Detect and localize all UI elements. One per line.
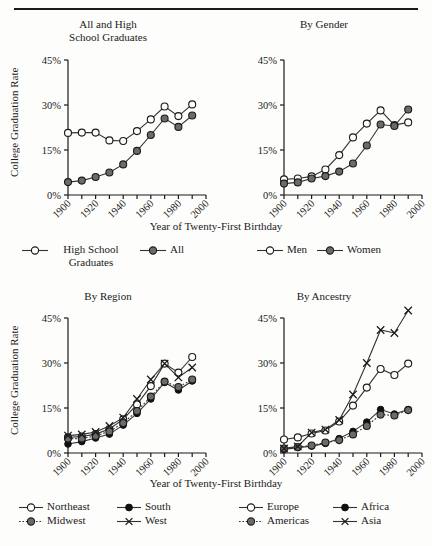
legend-item-west[interactable]: West: [117, 514, 187, 527]
y-tick-label: 15%: [42, 403, 62, 414]
y-tick-label: 30%: [258, 358, 278, 369]
panel-all-and-high-school-graduates: All and High School Graduates College Gr…: [0, 18, 216, 223]
data-point-marker: [92, 174, 99, 181]
data-point-marker: [134, 408, 141, 415]
panel-title-top-right: By Gender: [216, 18, 432, 31]
data-point-marker: [161, 378, 168, 385]
x-tick-label: 1940: [321, 456, 344, 479]
data-point-marker: [363, 384, 370, 391]
data-point-marker: [175, 384, 182, 391]
x-tick-label: 1900: [50, 198, 73, 221]
x-tick-label: 1960: [133, 456, 156, 479]
data-point-marker: [189, 354, 196, 361]
series-line: [68, 104, 192, 141]
x-tick-label: 1980: [161, 198, 184, 221]
x-tick-label: 1980: [161, 456, 184, 479]
gray-circle-dotted-icon: [19, 517, 43, 526]
y-tick-label: 15%: [42, 145, 62, 156]
x-tick-label: 1960: [349, 198, 372, 221]
series-line: [284, 311, 408, 449]
top-horizontal-rule: [14, 8, 418, 10]
data-point-marker: [189, 112, 196, 119]
legend-label: Asia: [361, 514, 381, 527]
black-circle-line-icon: [333, 503, 357, 512]
data-point-marker: [189, 101, 196, 108]
data-point-marker: [363, 423, 370, 430]
legend-label: Women: [347, 243, 381, 256]
data-point-marker: [65, 129, 72, 136]
data-point-marker: [281, 436, 288, 443]
data-point-marker: [349, 391, 356, 398]
legend-bottom-right: Europe Africa Americas Asia: [216, 500, 432, 527]
y-tick-label: 30%: [42, 100, 62, 111]
data-point-marker: [377, 121, 384, 128]
x-tick-label: 1940: [321, 198, 344, 221]
legend-item-south[interactable]: South: [117, 500, 187, 513]
data-point-marker: [161, 115, 168, 122]
legend-label: All: [170, 243, 184, 256]
legend-item-men[interactable]: Men: [257, 243, 307, 256]
data-point-marker: [363, 142, 370, 149]
legend-item-midwest[interactable]: Midwest: [19, 514, 107, 527]
cross-line-icon: [333, 517, 357, 526]
legend-item-americas[interactable]: Americas: [239, 514, 323, 527]
legend-bottom-left: Northeast South Midwest West: [0, 500, 216, 527]
x-tick-label: 1940: [105, 198, 128, 221]
legend-item-asia[interactable]: Asia: [333, 514, 399, 527]
legend-item-europe[interactable]: Europe: [239, 500, 323, 513]
y-tick-label: 30%: [258, 100, 278, 111]
data-point-marker: [281, 180, 288, 187]
series-line: [68, 116, 192, 183]
panel-by-region: By Region College Graduation Rate 0%15%3…: [0, 290, 216, 495]
data-point-marker: [350, 160, 357, 167]
gray-circle-line-icon: [140, 246, 166, 255]
black-circle-line-icon: [117, 503, 141, 512]
x-tick-label: 1980: [377, 198, 400, 221]
data-point-marker: [405, 360, 412, 367]
gray-circle-dotted-icon: [239, 517, 263, 526]
data-point-marker: [336, 168, 343, 175]
data-point-marker: [120, 161, 127, 168]
plot-bottom-right: 0%15%30%45%190019201940196019802000: [216, 306, 432, 481]
legend-label: High School Graduates: [52, 243, 130, 269]
data-point-marker: [391, 412, 398, 419]
y-tick-label: 45%: [258, 55, 278, 66]
x-tick-label: 1900: [50, 456, 73, 479]
legend-label: West: [145, 514, 167, 527]
data-point-marker: [92, 432, 99, 439]
data-point-marker: [391, 329, 398, 336]
data-point-marker: [350, 402, 357, 409]
series-line: [284, 364, 408, 440]
data-point-marker: [92, 129, 99, 136]
legend-top-right: Men Women: [216, 243, 432, 256]
legend-item-all[interactable]: All: [140, 243, 184, 256]
series-line: [284, 410, 408, 448]
y-tick-label: 0%: [263, 448, 277, 459]
data-point-marker: [350, 431, 357, 438]
series-line: [284, 110, 408, 179]
y-tick-label: 0%: [263, 190, 277, 201]
x-tick-label: 2000: [188, 198, 211, 221]
data-point-marker: [134, 128, 141, 135]
legend-item-africa[interactable]: Africa: [333, 500, 399, 513]
gray-circle-line-icon: [317, 246, 343, 255]
x-tick-label: 1960: [349, 456, 372, 479]
legend-item-high-school-graduates[interactable]: High School Graduates: [22, 243, 130, 269]
data-point-marker: [322, 173, 329, 180]
data-point-marker: [78, 177, 85, 184]
x-tick-label: 2000: [404, 456, 427, 479]
data-point-marker: [175, 123, 182, 130]
data-point-marker: [161, 103, 168, 110]
data-point-marker: [189, 376, 196, 383]
series-line: [68, 357, 192, 437]
data-point-marker: [106, 137, 113, 144]
data-point-marker: [405, 106, 412, 113]
x-tick-label: 1920: [78, 198, 101, 221]
cross-line-icon: [117, 517, 141, 526]
open-circle-line-icon: [22, 246, 48, 255]
legend-item-northeast[interactable]: Northeast: [19, 500, 107, 513]
y-tick-label: 45%: [258, 313, 278, 324]
legend-item-women[interactable]: Women: [317, 243, 381, 256]
panel-by-ancestry: By Ancestry 0%15%30%45%19001920194019601…: [216, 290, 432, 495]
data-point-marker: [78, 129, 85, 136]
